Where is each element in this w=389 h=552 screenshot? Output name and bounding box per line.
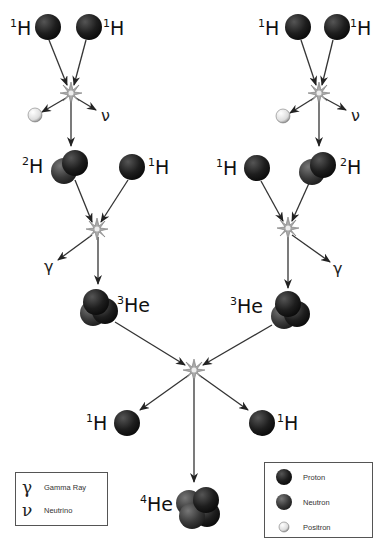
fusion-star-icon: [86, 218, 108, 240]
gamma-icon: γ: [22, 477, 44, 497]
proton-icon: [114, 410, 140, 436]
label-he3: 3He: [117, 295, 150, 315]
proton-icon: [324, 14, 350, 40]
label-h1: 1H: [10, 18, 31, 38]
label-h2: 2H: [22, 156, 43, 176]
neutrino-symbol: ν: [351, 108, 360, 124]
legend-item-proton: Proton: [303, 473, 325, 482]
proton-icon: [244, 155, 270, 181]
label-h1: 1H: [216, 158, 237, 178]
neutrino-symbol: ν: [101, 108, 110, 124]
legend-item-gamma: γ Gamma Ray: [22, 477, 86, 497]
positron-icon: [276, 109, 290, 123]
legend-particles: Proton Neutron Positron: [264, 462, 373, 538]
helium3-icon: [80, 289, 118, 326]
legend-emissions: γ Gamma Ray ν Neutrino: [15, 472, 108, 526]
gamma-symbol: γ: [44, 259, 53, 275]
label-he3: 3He: [230, 296, 263, 316]
proton-icon: [285, 14, 311, 40]
deuterium-icon: [299, 152, 336, 185]
legend-item-neutrino: ν Neutrino: [22, 500, 72, 520]
proton-icon: [249, 410, 275, 436]
proton-icon: [119, 154, 145, 180]
fusion-star-icon: [183, 359, 205, 381]
neutrino-icon: ν: [22, 500, 44, 520]
deuterium-icon: [51, 150, 88, 184]
fusion-star-icon: [60, 82, 82, 104]
label-he4: 4He: [140, 494, 173, 514]
label-h1: 1H: [86, 413, 107, 433]
helium3-icon: [271, 291, 310, 329]
label-h1: 1H: [103, 18, 124, 38]
proton-icon: [35, 14, 61, 40]
legend-item-neutron: Neutron: [303, 498, 330, 507]
fusion-star-icon: [308, 82, 330, 104]
positron-icon: [28, 108, 42, 122]
label-h1: 1H: [350, 18, 371, 38]
gamma-symbol: γ: [333, 261, 342, 277]
legend-item-positron: Positron: [303, 523, 331, 532]
proton-icon: [76, 14, 102, 40]
label-h1: 1H: [148, 157, 169, 177]
helium4-icon: [176, 487, 220, 529]
label-h2: 2H: [340, 157, 361, 177]
fusion-star-icon: [277, 217, 299, 239]
label-h1: 1H: [277, 413, 298, 433]
label-h1: 1H: [258, 18, 279, 38]
